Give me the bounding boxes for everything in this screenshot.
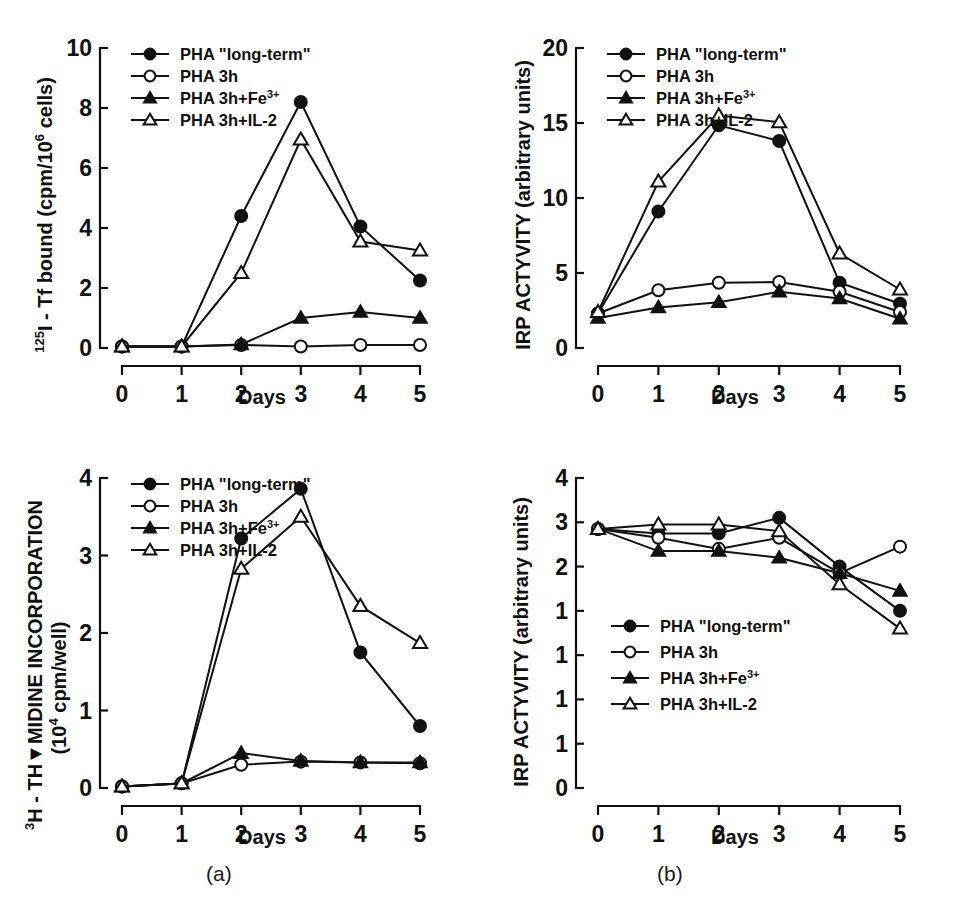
legend-marker-open-triangle	[131, 544, 169, 555]
y-tick-label: 0	[79, 335, 92, 361]
panel-captions: (a) (b)	[0, 862, 958, 907]
plot-area-bottom-right	[591, 512, 907, 634]
legend-top-left: PHA "long-term"PHA 3hPHA 3h+Fe3+PHA 3h+I…	[131, 45, 311, 129]
legend-marker-filled-triangle	[611, 672, 649, 683]
x-tick-label: 1	[652, 821, 665, 847]
chart-panel-top-right: IRP ACTYVITY (arbitrary units) 051015200…	[470, 0, 958, 430]
series-filled-triangle	[591, 522, 907, 596]
legend-label: PHA 3h+IL-2	[656, 111, 753, 129]
data-point-filled-circle	[414, 274, 426, 286]
legend-marker-open-circle	[611, 647, 649, 658]
chart-bottom-left-svg: 3H - TH▼MIDINE INCORPORATION (104 cpm/we…	[0, 430, 470, 870]
ylabel-sup-6: 6	[32, 134, 47, 141]
y-axis-label-bottom-right: IRP ACTYVITY (arbitrary units)	[510, 497, 532, 787]
legend-entry: PHA 3h+IL-2	[611, 695, 757, 713]
legend-marker-filled-circle	[131, 48, 169, 59]
legend-marker-open-circle	[131, 501, 169, 512]
ylabel-degraded-y-glyph: ▼	[24, 744, 46, 764]
legend-entry: PHA 3h+IL-2	[131, 111, 277, 129]
x-tick-label: 1	[652, 381, 665, 407]
legend-label: PHA 3h+Fe3+	[180, 518, 280, 537]
x-tick-label: 5	[894, 381, 907, 407]
ylabel-line2-pre: (10	[48, 726, 70, 755]
legend-marker-open-circle	[607, 71, 645, 82]
x-axis-title-bottom-left: Days	[238, 826, 286, 848]
svg-text:3H - TH▼MIDINE INCORPORATION: 3H - TH▼MIDINE INCORPORATION	[22, 500, 46, 830]
y-tick-label: 6	[79, 155, 92, 181]
y-tick-label: 0	[555, 775, 568, 801]
data-point-filled-circle	[235, 210, 247, 222]
chart-panel-top-left: 125I - Tf bound (cpm/106 cells) 02468100…	[0, 0, 470, 430]
y-tick-label: 1	[555, 642, 568, 668]
y-tick-label: 5	[555, 260, 568, 286]
legend-marker-filled-triangle	[607, 92, 645, 103]
y-tick-label: 4	[79, 465, 92, 491]
y-tick-label: 10	[66, 35, 92, 61]
x-tick-label: 4	[354, 381, 367, 407]
data-point-open-circle	[295, 341, 307, 353]
legend-label: PHA 3h+IL-2	[180, 541, 277, 559]
x-tick-label: 3	[773, 821, 786, 847]
y-tick-label: 4	[79, 215, 92, 241]
x-tick-label: 0	[116, 381, 129, 407]
y-tick-label: 2	[79, 275, 92, 301]
x-tick-label: 0	[116, 821, 129, 847]
svg-text:(104 cpm/well): (104 cpm/well)	[46, 622, 70, 755]
chart-bottom-right-svg: IRP ACTYVITY (arbitrary units) 011112340…	[470, 430, 958, 870]
legend-entry: PHA 3h+IL-2	[131, 541, 277, 559]
y-axis-label-top-right: IRP ACTYVITY (arbitrary units)	[512, 60, 534, 350]
legend-label: PHA 3h	[660, 643, 718, 661]
data-point-open-circle	[652, 284, 664, 296]
legend-entry: PHA 3h+Fe3+	[131, 88, 280, 107]
legend-entry: PHA 3h+Fe3+	[611, 668, 760, 687]
legend-label: PHA 3h+Fe3+	[660, 668, 760, 687]
legend-label: PHA 3h+Fe3+	[656, 88, 756, 107]
legend-entry: PHA "long-term"	[611, 617, 791, 635]
series-open-circle	[116, 756, 426, 793]
legend-label: PHA 3h	[180, 497, 238, 515]
legend-entry: PHA "long-term"	[131, 45, 311, 63]
y-axis-label-top-left: 125I - Tf bound (cpm/106 cells)	[32, 77, 56, 353]
legend-entry: PHA "long-term"	[131, 475, 311, 493]
y-tick-label: 1	[555, 731, 568, 757]
y-tick-label: 0	[79, 775, 92, 801]
y-tick-label: 8	[79, 95, 92, 121]
x-tick-label: 1	[175, 381, 188, 407]
ylabel-sup-125: 125	[32, 331, 47, 353]
x-axis-title-top-right: Days	[711, 386, 759, 408]
legend-marker-open-triangle	[607, 114, 645, 125]
y-tick-label: 1	[79, 698, 92, 724]
data-point-open-circle	[235, 759, 247, 771]
x-tick-label: 5	[414, 821, 427, 847]
x-tick-label: 3	[773, 381, 786, 407]
legend-entry: PHA 3h	[131, 67, 238, 85]
data-point-filled-circle	[773, 135, 785, 147]
legend-entry: PHA 3h+Fe3+	[607, 88, 756, 107]
legend-entry: PHA "long-term"	[607, 45, 787, 63]
y-tick-label: 2	[555, 554, 568, 580]
chart-panel-bottom-right: IRP ACTYVITY (arbitrary units) 011112340…	[470, 430, 958, 870]
data-point-open-triangle	[353, 599, 367, 611]
legend-marker-filled-triangle	[131, 522, 169, 533]
data-point-open-triangle	[413, 636, 427, 648]
legend-label: PHA "long-term"	[180, 45, 311, 63]
series-filled-circle	[592, 119, 906, 320]
data-point-open-triangle	[893, 283, 907, 295]
legend-marker-open-triangle	[131, 114, 169, 125]
x-tick-label: 1	[175, 821, 188, 847]
svg-text:125I - Tf bound (cpm/106 cells: 125I - Tf bound (cpm/106 cells)	[32, 77, 56, 353]
data-point-filled-circle	[295, 96, 307, 108]
y-tick-label: 10	[542, 185, 568, 211]
x-tick-label: 3	[294, 821, 307, 847]
legend-marker-filled-triangle	[131, 92, 169, 103]
legend-entry: PHA 3h+IL-2	[607, 111, 753, 129]
legend-label: PHA 3h+IL-2	[660, 695, 757, 713]
y-tick-label: 3	[79, 543, 92, 569]
y-tick-label: 20	[542, 35, 568, 61]
ylabel-main2: cells)	[34, 77, 56, 134]
legend-label: PHA "long-term"	[656, 45, 787, 63]
legend-label: PHA 3h+IL-2	[180, 111, 277, 129]
x-tick-label: 4	[833, 821, 846, 847]
chart-top-right-svg: IRP ACTYVITY (arbitrary units) 051015200…	[470, 0, 958, 430]
data-point-open-circle	[894, 541, 906, 553]
